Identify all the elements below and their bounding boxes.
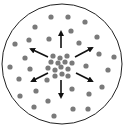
particle (65, 14, 70, 19)
cluster-particle (48, 59, 53, 64)
particle (22, 55, 27, 60)
particle (105, 67, 110, 72)
particle (94, 34, 99, 39)
particle (83, 63, 88, 68)
particle (99, 84, 104, 89)
cluster-particle (65, 73, 70, 78)
particle (76, 40, 81, 45)
particle (69, 86, 74, 91)
particle (86, 91, 91, 96)
cluster-particle (58, 64, 63, 69)
particle (82, 19, 87, 24)
particle (31, 104, 36, 109)
cluster-particle (52, 67, 57, 72)
particle (17, 93, 22, 98)
diffusion-diagram (0, 0, 125, 126)
particle (51, 113, 56, 118)
particle (70, 106, 75, 111)
particle (111, 54, 116, 59)
particle (46, 36, 51, 41)
particle (96, 51, 101, 56)
cluster-particle (62, 59, 67, 64)
cluster-particle (64, 53, 69, 58)
cluster-particle (57, 55, 62, 60)
arrow-upper-left-icon (31, 49, 48, 57)
particle (32, 24, 37, 29)
arrow-lower-right-icon (76, 73, 92, 81)
particle (45, 98, 50, 103)
boundary-circle (2, 4, 122, 124)
arrow-upper-right-icon (75, 48, 92, 57)
particle (33, 88, 38, 93)
particle (16, 76, 21, 81)
cluster-particle (69, 60, 74, 65)
particle (12, 41, 17, 46)
particle (44, 77, 49, 82)
cluster-particle (65, 66, 70, 71)
particle (48, 14, 53, 19)
particle (26, 37, 31, 42)
particle (7, 64, 12, 69)
cluster-particle (50, 53, 55, 58)
particle (85, 106, 90, 111)
particle (68, 28, 73, 33)
cluster-particle (52, 73, 57, 78)
cluster-particle (59, 71, 64, 76)
central-cluster (45, 53, 74, 78)
cluster-particle (45, 65, 50, 70)
particle (27, 66, 32, 71)
